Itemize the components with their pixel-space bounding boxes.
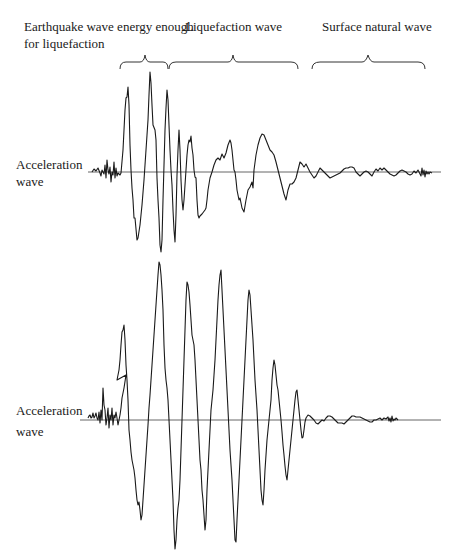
brace-surface-natural	[312, 55, 425, 69]
brace-liquefaction	[169, 55, 298, 69]
lower-acceleration-wave	[88, 262, 398, 549]
upper-acceleration-wave	[92, 72, 432, 252]
brace-earthquake-energy	[120, 55, 168, 69]
waveform-diagram	[0, 0, 453, 559]
